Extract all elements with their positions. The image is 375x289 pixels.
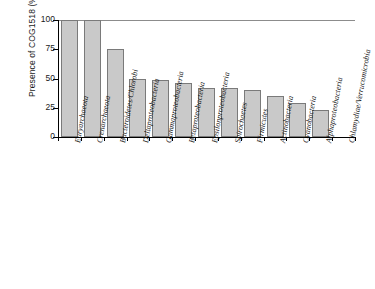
- y-axis-title: Presence of COG1518 (%): [27, 0, 37, 115]
- y-tick-label: 100: [41, 14, 55, 24]
- bar-chart-figure: Presence of COG1518 (%) 0255075100 Eurya…: [0, 0, 375, 289]
- plot-top-border: [58, 20, 355, 21]
- bar: [61, 20, 78, 137]
- y-tick-label: 50: [46, 73, 55, 83]
- y-tick-label: 75: [46, 43, 55, 53]
- y-tick-label: 0: [50, 131, 55, 141]
- x-tick-mark: [58, 137, 59, 141]
- y-tick-label: 25: [46, 102, 55, 112]
- y-axis-line: [58, 20, 59, 138]
